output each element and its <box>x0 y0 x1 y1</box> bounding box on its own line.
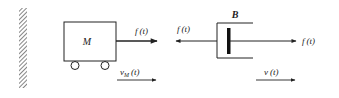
damper-velocity-label-arg: (t) <box>270 67 279 77</box>
damper-velocity-arrow: v(t) <box>256 67 295 80</box>
damper-velocity-label-main: v <box>264 67 268 77</box>
mass-velocity-arrow: vM(t) <box>117 67 156 80</box>
mass-velocity-label-arg: (t) <box>131 67 140 77</box>
damper-force-right-label-arg: (t) <box>307 36 316 46</box>
damper-piston <box>227 28 231 54</box>
damper-force-left-label-main: f <box>177 24 181 34</box>
damper-force-right-label-main: f <box>302 36 306 46</box>
damper-force-left-label: f(t) <box>177 24 190 34</box>
damper-force-right-arrow: f(t) <box>230 36 315 46</box>
wheel-left <box>71 62 79 70</box>
mass-velocity-label-sub: M <box>123 72 130 78</box>
wall-hatching <box>19 8 27 88</box>
mass-cart: M <box>64 22 116 70</box>
mass-force-label-arg: (t) <box>140 26 149 36</box>
wheel-right <box>101 62 109 70</box>
mass-force-arrow: f(t) <box>116 26 157 41</box>
mechanical-system-diagram: M f(t) vM(t) B f(t) f(t) <box>0 0 339 98</box>
mass-force-label: f(t) <box>135 26 148 36</box>
damper-velocity-label: v(t) <box>264 67 279 77</box>
wall <box>19 8 27 88</box>
mass-label: M <box>82 36 92 47</box>
damper-force-left-label-arg: (t) <box>182 24 191 34</box>
damper-force-left-arrow: f(t) <box>176 24 217 41</box>
mass-velocity-label: vM(t) <box>120 67 140 78</box>
damper-label: B <box>231 9 239 20</box>
mass-force-label-main: f <box>135 26 139 36</box>
damper-force-right-label: f(t) <box>302 36 315 46</box>
damper: B <box>217 9 253 58</box>
